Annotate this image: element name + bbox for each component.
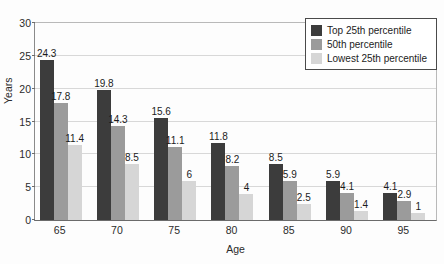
bar-value-label: 5.9	[283, 170, 297, 180]
bar-value-label: 11.4	[65, 134, 84, 144]
legend-label: Top 25th percentile	[327, 25, 412, 36]
bar-value-label: 5.9	[326, 170, 340, 180]
x-axis-tick-labels: 65707580859095	[34, 224, 437, 240]
bar-value-label: 14.3	[108, 115, 127, 125]
bar[interactable]: 4	[239, 194, 253, 220]
bar[interactable]: 8.5	[269, 164, 283, 220]
legend-label: 50th percentile	[327, 39, 393, 50]
bar-group: 24.317.811.4	[35, 23, 92, 220]
bar[interactable]: 1	[411, 213, 425, 220]
bar[interactable]: 4.1	[340, 193, 354, 220]
x-axis-title: Age	[34, 243, 437, 255]
bar[interactable]: 2.5	[297, 204, 311, 220]
y-tick-label: 20	[19, 83, 31, 95]
y-tick-label: 30	[19, 17, 31, 29]
bar[interactable]: 8.5	[125, 164, 139, 220]
bar-value-label: 11.8	[209, 132, 228, 142]
bar[interactable]: 15.6	[154, 118, 168, 220]
bar[interactable]: 11.1	[168, 147, 182, 220]
legend-item[interactable]: Top 25th percentile	[311, 23, 431, 37]
bar-value-label: 4.1	[383, 182, 397, 192]
y-tick-label: 5	[25, 181, 31, 193]
bar-group: 19.814.38.5	[92, 23, 149, 220]
bar[interactable]: 2.9	[397, 201, 411, 220]
bar-value-label: 4	[244, 183, 250, 193]
bar-value-label: 19.8	[94, 79, 113, 89]
bar-group: 11.88.24	[207, 23, 264, 220]
y-tick-label: 25	[19, 50, 31, 62]
x-tick-label: 75	[168, 224, 180, 236]
legend-item[interactable]: 50th percentile	[311, 37, 431, 51]
chart-legend: Top 25th percentile50th percentileLowest…	[305, 18, 437, 70]
bar[interactable]: 5.9	[283, 181, 297, 220]
bar-value-label: 8.5	[269, 153, 283, 163]
bar[interactable]: 19.8	[97, 90, 111, 220]
chart-container: Years 05101520253024.317.811.419.814.38.…	[0, 0, 444, 264]
bar-value-label: 4.1	[340, 182, 354, 192]
bar[interactable]: 11.8	[211, 143, 225, 220]
y-axis-title: Years	[2, 78, 14, 104]
bar[interactable]: 4.1	[383, 193, 397, 220]
legend-label: Lowest 25th percentile	[327, 53, 427, 64]
legend-swatch-icon	[311, 39, 322, 50]
y-tick-label: 10	[19, 148, 31, 160]
bar-value-label: 15.6	[151, 107, 170, 117]
bar-value-label: 1	[416, 202, 422, 212]
bar[interactable]: 6	[182, 181, 196, 220]
bar-value-label: 2.5	[297, 193, 311, 203]
bar-value-label: 1.4	[354, 200, 368, 210]
bar[interactable]: 1.4	[354, 211, 368, 220]
bar[interactable]: 24.3	[40, 60, 54, 220]
x-tick-label: 90	[340, 224, 352, 236]
bar[interactable]: 5.9	[326, 181, 340, 220]
bar-value-label: 8.5	[125, 153, 139, 163]
bar-value-label: 17.8	[51, 92, 70, 102]
bar[interactable]: 8.2	[225, 166, 239, 220]
x-tick-label: 95	[398, 224, 410, 236]
x-tick-label: 80	[226, 224, 238, 236]
bar-group: 15.611.16	[150, 23, 207, 220]
bar-value-label: 24.3	[37, 49, 56, 59]
bar-value-label: 11.1	[166, 136, 185, 146]
bar-value-label: 6	[186, 170, 192, 180]
x-tick-label: 85	[283, 224, 295, 236]
legend-swatch-icon	[311, 53, 322, 64]
x-tick-label: 70	[111, 224, 123, 236]
bar-value-label: 2.9	[397, 190, 411, 200]
x-tick-label: 65	[54, 224, 66, 236]
bar[interactable]: 17.8	[54, 103, 68, 220]
y-tick-label: 15	[19, 116, 31, 128]
bar[interactable]: 14.3	[111, 126, 125, 220]
legend-item[interactable]: Lowest 25th percentile	[311, 51, 431, 65]
bar[interactable]: 11.4	[68, 145, 82, 220]
y-tick-label: 0	[25, 214, 31, 226]
legend-swatch-icon	[311, 25, 322, 36]
bar-value-label: 8.2	[226, 155, 240, 165]
